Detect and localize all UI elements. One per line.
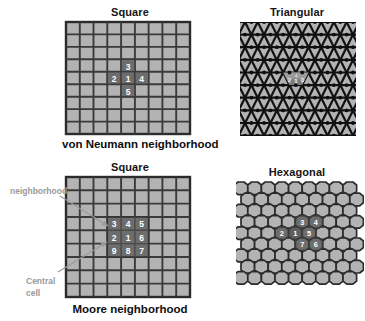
hexagonal-lattice: 3421576 bbox=[236, 180, 364, 302]
cell-label-9: 9 bbox=[112, 246, 117, 256]
moore-neighborhood-cells: 3 4 5 2 1 6 9 8 7 bbox=[107, 217, 148, 257]
cell-label-5: 5 bbox=[139, 219, 144, 229]
panel-title-square-moore: Square bbox=[62, 161, 198, 173]
panel-caption-von-neumann: von Neumann neighborhood bbox=[62, 138, 198, 150]
square-von-neumann-lattice: 3 2 1 4 5 bbox=[64, 20, 200, 136]
annotation-neighborhood-label: neighborhood bbox=[10, 186, 67, 197]
neighborhood-cell-2-label: 2 bbox=[280, 229, 284, 238]
panel-title-hexagonal: Hexagonal bbox=[232, 166, 362, 178]
neighborhood-cell-5-label: 5 bbox=[307, 229, 311, 238]
lattice-cell bbox=[289, 272, 303, 285]
lattice-cell bbox=[316, 272, 330, 285]
cell-label-5: 5 bbox=[126, 87, 131, 97]
panel-square-moore: Square bbox=[62, 161, 198, 313]
central-cell-label: 1 bbox=[293, 229, 297, 238]
lattice-cell bbox=[234, 272, 248, 285]
panel-title-triangular: Triangular bbox=[232, 6, 362, 18]
panel-title-square-von-neumann: Square bbox=[62, 6, 198, 18]
annotation-central-cell-label-line2: cell bbox=[26, 288, 40, 299]
triangular-mesh: 2 1 3 4 bbox=[220, 20, 365, 137]
hexagonal-cells: 3421576 bbox=[234, 182, 363, 284]
lattice-cell bbox=[261, 272, 275, 285]
lattice-cell bbox=[302, 272, 316, 285]
panel-triangular: Triangular bbox=[232, 6, 362, 146]
cell-label-8: 8 bbox=[126, 246, 131, 256]
panel-hexagonal: Hexagonal 3421576 bbox=[232, 166, 362, 306]
panel-square-von-neumann: Square 3 2 1 bbox=[62, 6, 198, 152]
cell-label-1: 1 bbox=[126, 74, 131, 84]
cell-label-3: 3 bbox=[126, 62, 131, 72]
lattice-cell bbox=[343, 272, 357, 285]
neighborhood-cell-7-label: 7 bbox=[300, 240, 304, 249]
triangular-lattice: 2 1 3 4 bbox=[236, 20, 364, 140]
lattice-cell bbox=[248, 272, 262, 285]
neighborhood-cell-3-label: 3 bbox=[300, 218, 304, 227]
annotation-central-cell-label-line1: Central bbox=[26, 276, 55, 287]
cell-label-4: 4 bbox=[126, 219, 131, 229]
central-cell-label-1: 1 bbox=[126, 233, 131, 243]
cell-label-7: 7 bbox=[139, 246, 144, 256]
cell-label-2: 2 bbox=[112, 74, 117, 84]
panel-caption-moore: Moore neighborhood bbox=[62, 303, 198, 315]
neighborhood-cell-6-label: 6 bbox=[314, 240, 318, 249]
cell-label-2: 2 bbox=[112, 233, 117, 243]
cell-label-6: 6 bbox=[139, 233, 144, 243]
cell-label-4: 4 bbox=[139, 74, 144, 84]
cell-label-3: 3 bbox=[112, 219, 117, 229]
lattice-cell bbox=[329, 272, 343, 285]
square-moore-lattice: 3 4 5 2 1 6 9 8 7 bbox=[64, 175, 200, 301]
lattice-cell bbox=[275, 272, 289, 285]
